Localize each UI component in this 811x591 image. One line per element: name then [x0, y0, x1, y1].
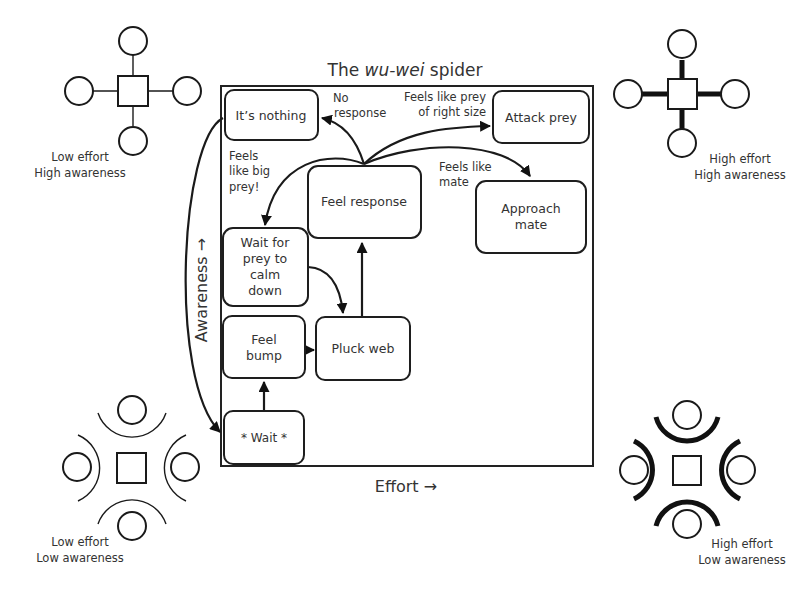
- svg-text:High awareness: High awareness: [694, 168, 785, 182]
- svg-text:mate: mate: [439, 175, 469, 189]
- awareness-axis-label: Awareness →: [192, 238, 211, 342]
- spider-icon-high-effort-low-awareness: High effort Low awareness: [620, 401, 786, 567]
- svg-text:like big: like big: [229, 164, 270, 178]
- svg-text:High effort: High effort: [709, 152, 771, 166]
- node-approach-mate: Approach mate: [476, 181, 586, 253]
- edge-right-size: [364, 126, 490, 164]
- edge-label-no-response: No response: [333, 91, 386, 120]
- svg-text:response: response: [334, 106, 386, 120]
- svg-text:* Wait *: * Wait *: [241, 431, 287, 445]
- node-pluck-web: Pluck web: [316, 317, 410, 380]
- diagram-title: The wu-wei spider: [327, 60, 483, 80]
- svg-text:Feel: Feel: [251, 332, 276, 347]
- node-its-nothing: It’s nothing: [225, 90, 318, 140]
- svg-text:prey!: prey!: [229, 180, 259, 194]
- svg-text:bump: bump: [246, 348, 282, 363]
- svg-text:No: No: [333, 91, 349, 105]
- svg-text:Low effort: Low effort: [51, 150, 109, 164]
- svg-text:of right size: of right size: [418, 105, 486, 119]
- svg-text:prey to: prey to: [243, 251, 287, 266]
- edge-calm-to-pluck: [308, 267, 343, 313]
- spider-icon-low-effort-low-awareness: Low effort Low awareness: [36, 396, 199, 565]
- svg-text:High effort: High effort: [711, 537, 773, 551]
- node-feel-bump: Feel bump: [223, 316, 305, 378]
- svg-text:calm: calm: [250, 267, 280, 282]
- svg-text:mate: mate: [515, 217, 548, 232]
- svg-text:It’s nothing: It’s nothing: [236, 108, 307, 123]
- spider-icon-high-effort-high-awareness: High effort High awareness: [614, 30, 786, 182]
- node-wait: * Wait *: [224, 411, 304, 464]
- svg-text:Approach: Approach: [501, 201, 560, 216]
- svg-text:Feels like: Feels like: [439, 160, 492, 174]
- effort-axis-label: Effort →: [375, 477, 437, 496]
- svg-text:Low effort: Low effort: [51, 535, 109, 549]
- svg-text:Low awareness: Low awareness: [698, 553, 786, 567]
- svg-text:Feels like prey: Feels like prey: [404, 90, 486, 104]
- svg-text:Pluck web: Pluck web: [332, 341, 395, 356]
- edge-label-right-size: Feels like prey of right size: [404, 90, 486, 119]
- node-feel-response: Feel response: [308, 166, 421, 238]
- node-wait-for-prey: Wait for prey to calm down: [223, 228, 308, 306]
- edge-no-response: [322, 118, 364, 164]
- svg-text:Feels: Feels: [229, 149, 258, 163]
- svg-text:Low awareness: Low awareness: [36, 551, 124, 565]
- svg-text:Attack prey: Attack prey: [505, 110, 577, 125]
- svg-text:Feel response: Feel response: [321, 194, 407, 209]
- spider-icon-low-effort-high-awareness: Low effort High awareness: [34, 27, 201, 180]
- svg-text:down: down: [248, 283, 282, 298]
- edge-label-big-prey: Feels like big prey!: [229, 149, 270, 194]
- wu-wei-diagram: The wu-wei spider Effort → Awareness → I…: [0, 0, 811, 591]
- node-attack-prey: Attack prey: [493, 91, 589, 143]
- svg-text:High awareness: High awareness: [34, 166, 125, 180]
- svg-text:Wait for: Wait for: [241, 235, 291, 250]
